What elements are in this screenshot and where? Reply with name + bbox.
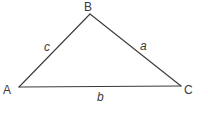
side-label-b: b bbox=[97, 90, 104, 104]
vertex-label-c: C bbox=[184, 83, 193, 97]
side-label-a: a bbox=[140, 39, 147, 53]
vertex-label-a: A bbox=[3, 83, 11, 97]
side-c-line bbox=[19, 14, 90, 87]
side-b-line bbox=[19, 86, 181, 87]
triangle-diagram: A B C c a b bbox=[0, 0, 208, 113]
side-label-c: c bbox=[44, 40, 50, 54]
vertex-label-b: B bbox=[84, 0, 92, 14]
side-a-line bbox=[90, 14, 181, 86]
